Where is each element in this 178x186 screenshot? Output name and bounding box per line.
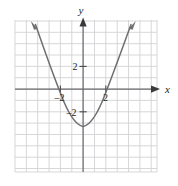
- graph-figure: y x –2 2 2 –2: [0, 0, 178, 186]
- x-axis: [15, 85, 160, 92]
- curve-right-arrowhead: [129, 21, 136, 30]
- ytick-label-neg2: –2: [66, 107, 77, 118]
- xtick-label-neg2: –2: [54, 92, 65, 103]
- y-axis: [80, 18, 87, 173]
- grid-lines: [15, 20, 157, 172]
- y-axis-label: y: [78, 4, 84, 16]
- xtick-label-pos2: 2: [103, 92, 108, 103]
- x-axis-arrowhead: [151, 85, 160, 92]
- y-axis-arrowhead: [80, 18, 87, 27]
- curve-left-arrowhead: [31, 21, 38, 30]
- x-axis-label: x: [164, 83, 170, 95]
- ytick-label-pos2: 2: [73, 61, 78, 72]
- coordinate-plane: y x –2 2 2 –2: [0, 0, 178, 186]
